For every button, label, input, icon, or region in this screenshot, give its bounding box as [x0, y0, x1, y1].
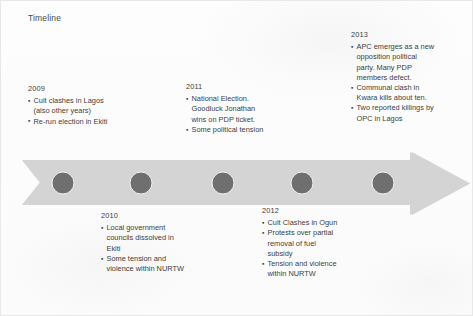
timeline-node-2010[interactable] — [130, 171, 153, 194]
event-year-2011: 2011 — [186, 82, 268, 92]
timeline-node-2013[interactable] — [372, 171, 395, 194]
timeline-node-2011[interactable] — [212, 171, 235, 194]
event-year-2012: 2012 — [262, 206, 342, 216]
slide-border-left — [0, 0, 1, 316]
event-item: APC emerges as a new opposition politica… — [351, 42, 435, 83]
event-block-2011: 2011 National Election. Goodluck Jonatha… — [186, 82, 268, 135]
page-title: Timeline — [28, 13, 61, 23]
event-item: Tension and violence within NURTW — [262, 259, 342, 279]
timeline-node-2009[interactable] — [52, 171, 75, 194]
event-item: Local government councils dissolved in E… — [101, 223, 185, 254]
event-item: Cult clashes in Lagos (also other years) — [28, 96, 112, 116]
event-item: Re-run election in Ekiti — [28, 117, 112, 127]
event-year-2009: 2009 — [28, 84, 112, 94]
event-block-2010: 2010 Local government councils dissolved… — [101, 211, 185, 274]
event-list-2010: Local government councils dissolved in E… — [101, 223, 185, 274]
event-block-2009: 2009 Cult clashes in Lagos (also other y… — [28, 84, 112, 127]
event-item: National Election. Goodluck Jonathan win… — [186, 94, 268, 125]
event-list-2011: National Election. Goodluck Jonathan win… — [186, 94, 268, 135]
arrow-head — [410, 152, 470, 215]
event-block-2013: 2013 APC emerges as a new opposition pol… — [351, 30, 435, 124]
slide-border-top — [0, 0, 473, 1]
event-item: Some political tension — [186, 125, 268, 135]
event-item: Cult Clashes in Ogun — [262, 218, 342, 228]
event-year-2010: 2010 — [101, 211, 185, 221]
timeline-slide: Timeline 2009 Cult clashes in Lagos (als… — [0, 0, 473, 316]
event-item: Communal clash in Kwara kills about ten. — [351, 83, 435, 103]
event-item: Protests over partial removal of fuel su… — [262, 228, 342, 259]
event-year-2013: 2013 — [351, 30, 435, 40]
event-item: Two reported killings by OPC in Lagos — [351, 103, 435, 123]
arrow-shape — [22, 152, 470, 215]
event-list-2013: APC emerges as a new opposition politica… — [351, 42, 435, 124]
event-item: Some tension and violence within NURTW — [101, 254, 185, 274]
timeline-node-2012[interactable] — [291, 171, 314, 194]
event-list-2009: Cult clashes in Lagos (also other years)… — [28, 96, 112, 127]
event-block-2012: 2012 Cult Clashes in Ogun Protests over … — [262, 206, 342, 279]
event-list-2012: Cult Clashes in Ogun Protests over parti… — [262, 218, 342, 279]
